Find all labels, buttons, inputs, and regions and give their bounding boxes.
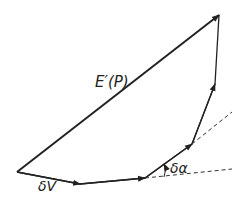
dashed-extension-1 (145, 169, 232, 178)
delta-alpha-label: δα (170, 160, 188, 176)
step-vectors (17, 15, 219, 184)
delta-v-label: δV (38, 178, 56, 194)
resultant-label: E′(P) (95, 73, 129, 91)
diagram-canvas (0, 0, 244, 203)
angle-arc (164, 164, 166, 177)
step-arrow-2 (80, 178, 145, 184)
vector-diagram: E′(P) δV δα (0, 0, 244, 203)
resultant-arrow (17, 15, 219, 172)
